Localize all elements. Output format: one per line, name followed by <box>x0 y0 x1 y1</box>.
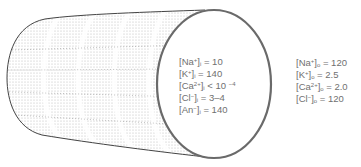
ion-concentration-cl: [Cl−]i = 3–4 <box>179 92 236 104</box>
ion-concentration-ca: [Ca2+]o = 2.0 <box>296 81 348 93</box>
ion-concentration-ca: [Ca2+]i < 10 −4 <box>179 80 236 92</box>
extracellular-concentrations: [Na+]o = 120[K+]o = 2.5[Ca2+]o = 2.0[Cl−… <box>296 57 348 105</box>
ion-concentration-k: [K+]i = 140 <box>179 68 236 80</box>
intracellular-concentrations: [Na+]i = 10[K+]i = 140[Ca2+]i < 10 −4[Cl… <box>179 56 236 116</box>
ion-concentration-an: [An−]i = 140 <box>179 104 236 116</box>
ion-concentration-k: [K+]o = 2.5 <box>296 69 348 81</box>
ion-concentration-cl: [Cl−]o = 120 <box>296 93 348 105</box>
ion-concentration-na: [Na+]i = 10 <box>179 56 236 68</box>
ion-concentration-na: [Na+]o = 120 <box>296 57 348 69</box>
